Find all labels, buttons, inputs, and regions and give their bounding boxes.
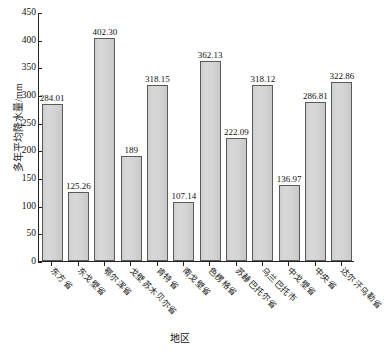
x-category-label: 东戈壁省: [75, 266, 82, 273]
x-category-label: 戈壁苏木贝尔省: [128, 266, 135, 273]
x-category-label: 鄂尔浑省: [101, 266, 108, 273]
bar: [305, 102, 326, 261]
bar: [200, 61, 221, 261]
bar-value-label: 318.15: [133, 75, 182, 84]
bar: [331, 82, 352, 261]
y-tick-label: 100: [10, 202, 36, 212]
y-tick-label: 250: [10, 119, 36, 129]
x-category-label: 苏赫巴托尔省: [233, 266, 240, 273]
bar-value-label: 402.30: [80, 28, 129, 37]
y-tick-label: 150: [10, 174, 36, 184]
x-axis-title: 地区: [0, 330, 359, 345]
plot-area: 284.01125.26402.30189318.15107.14362.132…: [38, 13, 354, 262]
bar-value-label: 284.01: [28, 94, 77, 103]
bar-value-label: 362.13: [186, 51, 235, 60]
y-tick-label: 50: [10, 230, 36, 240]
x-category-label: 中央省: [312, 266, 319, 273]
bar: [121, 156, 142, 261]
y-tick-label: 350: [10, 64, 36, 74]
bar-value-label: 318.12: [238, 75, 287, 84]
y-axis-tick-labels: 050100150200250300350400450: [6, 0, 36, 357]
x-category-label: 肯特省: [154, 266, 161, 273]
bar: [147, 85, 168, 261]
x-category-label: 中戈壁省: [286, 266, 293, 273]
x-axis-category-labels: 东方省东戈壁省鄂尔浑省戈壁苏木贝尔省肯特省南戈壁省色楞格省苏赫巴托尔省乌兰巴托市…: [38, 266, 354, 326]
y-tick-label: 450: [10, 8, 36, 18]
x-category-label: 达尔汗乌勒省: [338, 266, 345, 273]
bar: [279, 185, 300, 261]
y-tick-label: 400: [10, 36, 36, 46]
bar-value-label: 322.86: [317, 72, 366, 81]
x-category-label: 南戈壁省: [180, 266, 187, 273]
bar: [226, 138, 247, 261]
y-axis-line: [38, 13, 39, 262]
y-tick-label: 200: [10, 147, 36, 157]
x-category-label: 东方省: [49, 266, 56, 273]
bar: [68, 192, 89, 261]
x-category-label: 乌兰巴托市: [259, 266, 266, 273]
x-category-label: 色楞格省: [207, 266, 214, 273]
bar: [173, 202, 194, 261]
y-tick-label: 0: [10, 257, 36, 267]
bar: [252, 85, 273, 261]
